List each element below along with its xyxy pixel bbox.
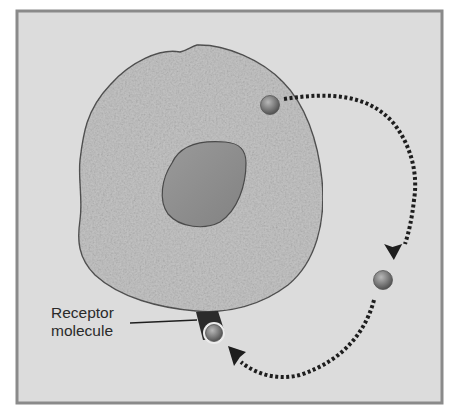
signal-molecule-inside: [261, 96, 280, 115]
signal-molecule-outside: [374, 271, 393, 290]
receptor-label-line1: Receptor: [51, 304, 114, 322]
diagram-canvas: [0, 0, 452, 412]
receptor-label-line2: molecule: [51, 322, 113, 340]
bound-molecule-core: [206, 325, 223, 342]
cell-signaling-diagram: Receptor molecule: [0, 0, 452, 412]
